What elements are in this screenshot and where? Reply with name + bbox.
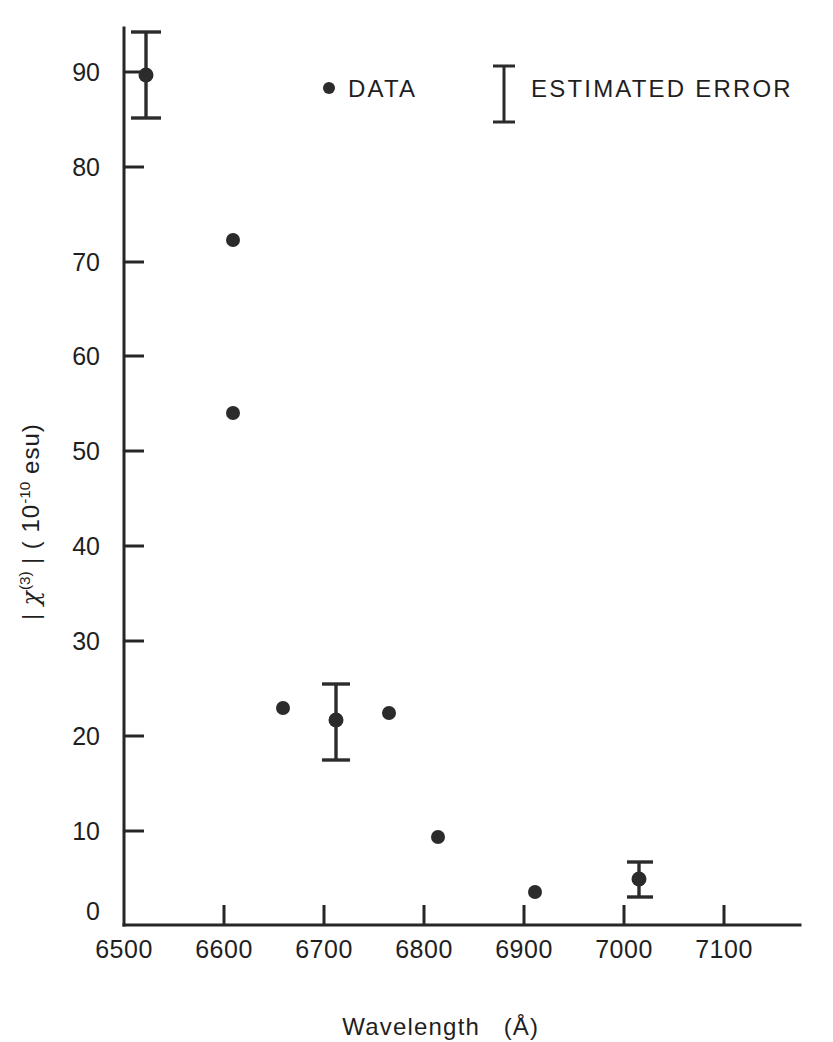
x-axis-title-text: Wavelength (Å) (342, 1013, 539, 1040)
y-tick-marks (124, 72, 144, 831)
data-point (431, 830, 445, 844)
data-point (632, 872, 647, 887)
legend-marker-error-icon (493, 66, 515, 122)
y-axis-title-unit: esu (17, 432, 44, 474)
y-tick-label: 70 (36, 248, 100, 277)
y-tick-label: 20 (36, 722, 100, 751)
data-point (226, 406, 240, 420)
data-point (528, 885, 542, 899)
y-tick-label: 50 (36, 437, 100, 466)
y-tick-label: 90 (36, 58, 100, 87)
y-tick-label: 60 (36, 342, 100, 371)
y-axis-title-chi-superscript: (3) (16, 571, 33, 590)
data-points (139, 68, 647, 900)
chart-canvas (0, 0, 833, 1042)
x-tick-label: 7100 (669, 935, 779, 964)
data-point (139, 68, 154, 83)
y-axis-title-base: 10 (17, 504, 44, 533)
y-axis-title-bar-close: | (17, 557, 44, 564)
error-bars (131, 32, 653, 897)
x-tick-label: 6500 (69, 935, 179, 964)
figure-container: 90 80 70 60 50 40 30 20 10 0 6500 6600 6… (0, 0, 833, 1042)
legend-item-error-label: ESTIMATED ERROR (531, 75, 793, 103)
data-point (226, 233, 240, 247)
x-tick-marks (224, 905, 724, 925)
x-tick-label: 6600 (169, 935, 279, 964)
y-tick-label: 40 (36, 532, 100, 561)
y-axis-title-chi: χ (17, 590, 45, 606)
axes (124, 28, 800, 925)
y-tick-label: 80 (36, 153, 100, 182)
y-axis-title-bar-open: | (17, 613, 44, 620)
x-tick-label: 7000 (569, 935, 679, 964)
legend-item-data-label: DATA (348, 75, 417, 103)
data-point (382, 706, 396, 720)
y-axis-title-exponent: -10 (16, 482, 33, 504)
x-axis-title: Wavelength (Å) (215, 985, 635, 1042)
x-tick-label: 6700 (269, 935, 379, 964)
y-axis-title-paren-open: ( (17, 540, 44, 549)
x-tick-label: 6800 (369, 935, 479, 964)
data-point (276, 701, 290, 715)
x-tick-label: 6900 (469, 935, 579, 964)
y-tick-label: 30 (36, 627, 100, 656)
y-tick-label: 0 (36, 897, 100, 926)
y-axis-title-paren-close: ) (17, 423, 44, 432)
legend-marker-data-icon (323, 82, 335, 94)
y-axis-title: | χ(3) | ( 10-10 esu) (16, 423, 45, 620)
y-tick-label: 10 (36, 817, 100, 846)
data-point (329, 713, 344, 728)
